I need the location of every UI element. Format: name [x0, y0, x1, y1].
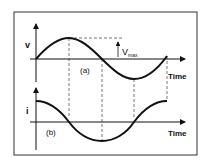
bottom-graph: i (b) Time	[26, 88, 187, 150]
top-graph: v (a) Time Vmax	[25, 24, 187, 82]
panel-a-label: (a)	[80, 66, 90, 75]
bottom-time-label: Time	[168, 129, 187, 138]
i-axis-label: i	[26, 106, 29, 116]
waveform-diagram: v (a) Time Vmax i (b) Time	[0, 0, 208, 168]
vmax-label: Vmax	[122, 47, 138, 58]
top-time-label: Time	[168, 72, 187, 81]
v-axis-label: v	[25, 40, 30, 50]
panel-b-label: (b)	[46, 128, 56, 137]
